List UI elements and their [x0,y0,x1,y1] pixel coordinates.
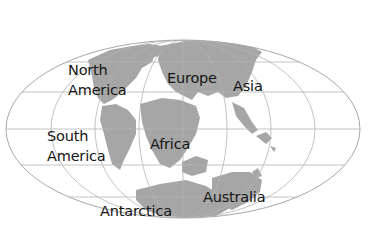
label-south-america: South America [47,128,105,164]
landmass-africa [140,98,200,168]
world-map [0,0,383,236]
landmass-islands [252,132,276,178]
label-europe: Europe [167,70,217,86]
label-south-america-line2: America [47,148,105,164]
label-north-america-line1: North [68,62,126,78]
label-antarctica: Antarctica [100,203,172,219]
label-north-america-line2: America [68,82,126,98]
landmass-india [182,156,208,176]
label-south-america-line1: South [47,128,105,144]
label-north-america: North America [68,62,126,98]
label-africa: Africa [150,136,190,152]
label-asia: Asia [233,78,263,94]
label-australia: Australia [203,189,265,205]
